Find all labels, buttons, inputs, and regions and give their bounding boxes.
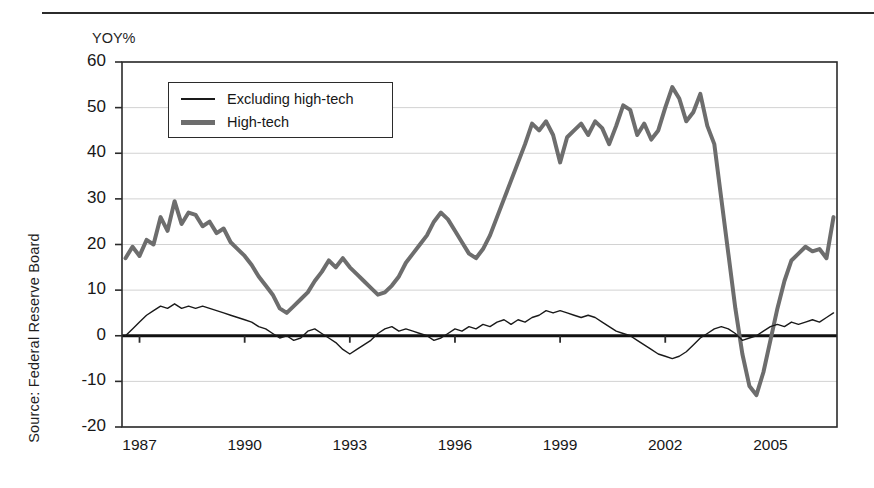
y-tick-label: 60 — [62, 51, 106, 71]
legend-label: Excluding high-tech — [227, 91, 354, 107]
x-tick-label: 1996 — [425, 436, 485, 454]
x-tick-label: 1999 — [530, 436, 590, 454]
x-tick-label: 1987 — [110, 436, 170, 454]
x-tick-label: 1993 — [320, 436, 380, 454]
series-line-excluding-high-tech — [126, 304, 834, 359]
chart-legend: Excluding high-tech High-tech — [168, 82, 393, 138]
y-tick-label: 30 — [62, 188, 106, 208]
y-tick-label: 40 — [62, 142, 106, 162]
y-tick-label: -10 — [62, 370, 106, 390]
legend-swatch-line-icon — [181, 120, 215, 125]
chart-plot-area — [0, 0, 874, 488]
y-tick-label: 50 — [62, 97, 106, 117]
legend-entry-excluding-high-tech: Excluding high-tech — [181, 88, 354, 110]
legend-label: High-tech — [227, 114, 289, 130]
y-tick-label: 10 — [62, 279, 106, 299]
y-tick-label: -20 — [62, 416, 106, 436]
x-tick-label: 1990 — [215, 436, 275, 454]
y-tick-label: 0 — [62, 325, 106, 345]
x-tick-label: 2005 — [740, 436, 800, 454]
x-tick-label: 2002 — [635, 436, 695, 454]
legend-entry-high-tech: High-tech — [181, 111, 289, 133]
y-tick-label: 20 — [62, 234, 106, 254]
figure-container: Source: Federal Reserve Board YOY% 60504… — [0, 0, 874, 488]
legend-swatch-line-icon — [181, 98, 215, 100]
